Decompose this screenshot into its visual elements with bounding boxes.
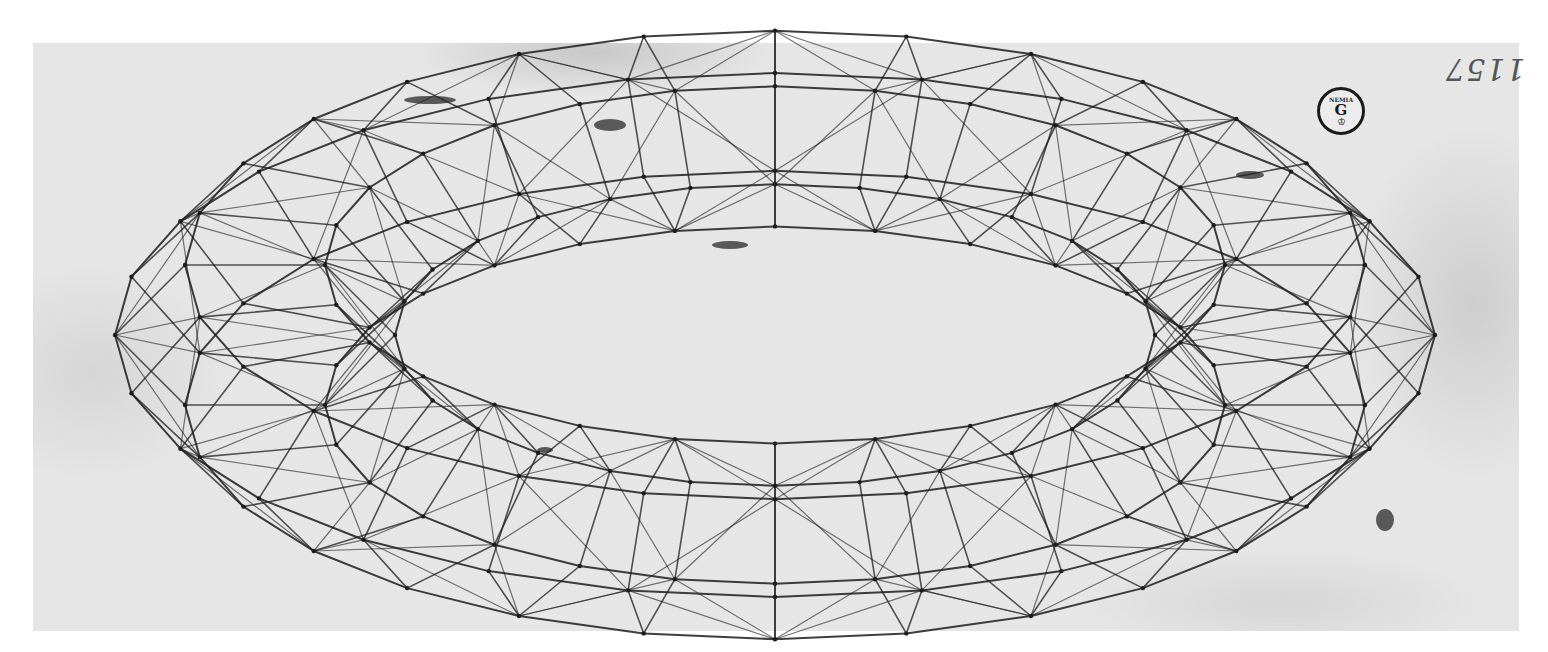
wire-node (492, 402, 496, 406)
wire-edge (519, 476, 644, 493)
wire-edge (970, 104, 1055, 125)
wire-edge (1180, 445, 1213, 483)
wire-edge (200, 188, 370, 213)
wire-edge (1350, 317, 1418, 393)
wire-edge (200, 317, 244, 367)
wire-edge (314, 376, 424, 411)
wire-edge (494, 104, 579, 125)
wire-edge (628, 493, 644, 590)
wire-node (334, 443, 338, 447)
wire-edge (200, 457, 244, 507)
wire-edge (1180, 328, 1350, 353)
wire-edge (775, 590, 922, 639)
wire-edge (336, 445, 369, 483)
wire-node (1141, 80, 1145, 84)
wire-edge (1307, 367, 1370, 449)
wire-node (113, 333, 117, 337)
wire-node (1212, 223, 1216, 227)
wire-node (873, 89, 877, 93)
wire-edge (180, 221, 199, 353)
wire-edge (336, 328, 369, 366)
wire-node (334, 303, 338, 307)
wire-edge (628, 73, 775, 80)
wire-edge (922, 80, 1031, 194)
wire-edge (1307, 163, 1351, 213)
wire-edge (200, 303, 244, 353)
wire-node (492, 123, 496, 127)
wire-node (673, 437, 677, 441)
wire-edge (922, 476, 1031, 590)
wire-edge (610, 91, 675, 199)
wire-node (773, 484, 777, 488)
wire-edge (259, 130, 364, 171)
wire-node (1115, 398, 1119, 402)
wire-edge (1056, 405, 1237, 411)
wire-edge (180, 221, 243, 303)
wire-edge (494, 405, 610, 471)
wire-node (608, 197, 612, 201)
wire-node (517, 614, 521, 618)
wire-edge (243, 507, 313, 551)
wire-node (1304, 161, 1308, 165)
wire-node (1125, 514, 1129, 518)
wire-edge (1117, 401, 1180, 483)
wire-edge (1291, 172, 1370, 222)
wire-edge (519, 177, 644, 194)
wire-node (198, 211, 202, 215)
wire-edge (644, 171, 775, 177)
wire-edge (1072, 343, 1180, 430)
wire-edge (775, 579, 875, 639)
wire-edge (775, 171, 906, 177)
wire-node (1363, 263, 1367, 267)
wire-node (1363, 403, 1367, 407)
wire-edge (314, 82, 407, 119)
wire-edge (1180, 317, 1350, 342)
wire-edge (200, 405, 325, 457)
wire-node (334, 223, 338, 227)
wire-node (1433, 333, 1437, 337)
wire-edge (200, 328, 370, 353)
wire-edge (1056, 259, 1237, 265)
wire-edge (1180, 188, 1350, 213)
wire-node (773, 71, 777, 75)
wire-node (1141, 446, 1145, 450)
wire-edge (775, 493, 906, 499)
wire-node (405, 446, 409, 450)
wire-edge (200, 317, 370, 342)
wire-node (405, 586, 409, 590)
wire-edge (519, 476, 628, 590)
stamp-letter: G (1335, 103, 1348, 117)
wire-edge (1214, 445, 1351, 457)
wire-node (517, 52, 521, 56)
wire-node (1053, 402, 1057, 406)
wire-edge (185, 353, 200, 405)
wire-edge (200, 457, 370, 482)
wire-edge (180, 172, 259, 222)
wire-node (312, 117, 316, 121)
wire-edge (1225, 213, 1350, 265)
wire-node (968, 102, 972, 106)
wire-edge (675, 439, 775, 444)
wire-node (773, 169, 777, 173)
wire-edge (675, 226, 775, 231)
wire-edge (1127, 376, 1237, 411)
wire-node (430, 398, 434, 402)
wire-edge (132, 393, 200, 457)
wire-edge (775, 226, 875, 231)
wire-edge (875, 91, 970, 104)
wire-node (1184, 538, 1188, 542)
wire-edge (775, 86, 875, 91)
wire-edge (628, 80, 644, 177)
wire-node (241, 364, 245, 368)
wire-edge (1012, 429, 1072, 453)
wire-edge (494, 405, 538, 453)
wire-node (421, 291, 425, 295)
wire-node (773, 595, 777, 599)
wire-edge (675, 91, 691, 188)
wire-node (773, 582, 777, 586)
wire-edge (314, 259, 424, 294)
ink-blot (404, 96, 456, 104)
wire-edge (314, 551, 407, 588)
wire-edge (478, 217, 538, 241)
wire-edge (775, 633, 906, 639)
